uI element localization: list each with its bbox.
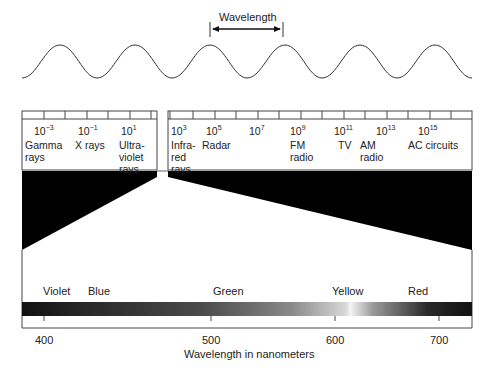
tick-400: 400 xyxy=(35,334,53,346)
xray-label: X rays xyxy=(75,139,105,151)
exp-label: 10−3 xyxy=(34,124,54,137)
tick-700: 700 xyxy=(430,334,448,346)
gamma-label: Gammarays xyxy=(25,139,62,163)
visible-spectrum-bar xyxy=(22,302,472,316)
exp-label: 103 xyxy=(171,124,187,137)
exp-label: 1011 xyxy=(334,124,353,137)
spectrum-diagram xyxy=(0,0,494,373)
color-red: Red xyxy=(408,285,428,297)
exp-label: 105 xyxy=(206,124,222,137)
color-green: Green xyxy=(213,285,244,297)
zoom-left xyxy=(22,171,157,250)
tick-600: 600 xyxy=(326,334,344,346)
tv-label: TV xyxy=(338,139,351,151)
zoom-right xyxy=(168,171,472,250)
ir-label: Infra-redrays xyxy=(171,139,196,175)
color-blue: Blue xyxy=(88,285,110,297)
exp-label: 107 xyxy=(249,124,265,137)
color-violet: Violet xyxy=(43,285,70,297)
exp-label: 10−1 xyxy=(78,124,98,137)
tick-500: 500 xyxy=(202,334,220,346)
wavelength-label: Wavelength xyxy=(219,11,277,23)
exp-label: 1015 xyxy=(418,124,437,137)
fm-label: FMradio xyxy=(290,139,313,163)
exp-label: 109 xyxy=(290,124,306,137)
am-label: AMradio xyxy=(360,139,383,163)
color-yellow: Yellow xyxy=(332,285,363,297)
axis-title: Wavelength in nanometers xyxy=(184,348,314,360)
exp-label: 1013 xyxy=(376,124,395,137)
sine-wave xyxy=(22,45,472,78)
uv-label: Ultra-violetrays xyxy=(119,139,145,175)
radar-label: Radar xyxy=(202,139,231,151)
exp-label: 101 xyxy=(121,124,137,137)
ac-label: AC circuits xyxy=(408,139,458,151)
